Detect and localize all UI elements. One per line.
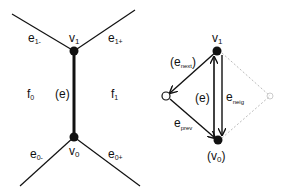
left-diagram: v1 v0 e1- e1+ e0- e0+ (e) f0 f1 [12,10,140,186]
svg-text:eprev: eprev [174,116,192,131]
label-v0: (v [207,149,217,163]
edge-e1-minus [12,14,74,51]
edge-e0-minus [20,137,74,186]
svg-text:e1-: e1- [28,31,42,45]
svg-text:f1: f1 [111,87,118,101]
svg-text:e0+: e0+ [108,147,123,161]
right-diagram: v1 (v0) (enext) (e) eneig eprev [162,31,273,164]
label-e: (e) [55,87,70,101]
vertex-v0 [70,133,79,142]
svg-text:(v0): (v0) [207,149,225,164]
svg-text:eneig: eneig [226,90,244,105]
svg-text:e0-: e0- [30,147,44,161]
svg-text:v1: v1 [212,31,223,46]
svg-text:v0: v0 [69,144,80,159]
vertex-left-open [162,92,170,100]
label-e: (e) [195,91,210,105]
edge-e1-plus [74,10,135,51]
vertex-v1 [70,47,79,56]
vertex-v1 [213,47,222,56]
edge-e0-plus [74,137,140,186]
label-e-next: (e [170,55,181,69]
svg-text:v1: v1 [69,31,80,46]
svg-text:(enext): (enext) [170,55,196,69]
vertex-v0 [214,136,223,145]
svg-text:f0: f0 [27,87,34,101]
half-edge-diagram: v1 v0 e1- e1+ e0- e0+ (e) f0 f1 v1 (v0) … [0,0,289,196]
svg-text:e1+: e1+ [108,31,123,45]
